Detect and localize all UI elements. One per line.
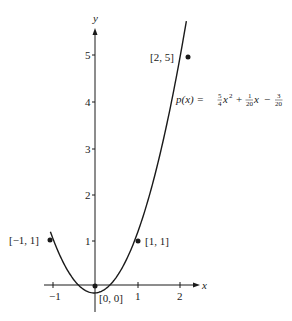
x-tick-label: 2 (177, 290, 183, 302)
data-point (93, 284, 98, 289)
x-axis-label: x (201, 279, 207, 291)
formula-sup: 2 (229, 92, 233, 100)
point-label: [1, 1] (145, 235, 169, 247)
x-axis: −1 1 2 x (44, 279, 207, 302)
formula-b-den: 20 (246, 100, 254, 108)
formula-x1: x (253, 93, 259, 105)
x-axis-arrow-icon (193, 283, 200, 288)
formula-b-num: 1 (248, 92, 252, 100)
formula-lhs: p(x) = (175, 93, 204, 106)
y-axis-arrow-icon (93, 28, 98, 35)
data-point (136, 239, 141, 244)
y-tick-label: 1 (85, 235, 91, 247)
data-points (48, 55, 191, 289)
chart: −1 1 2 x 1 2 3 4 5 y [−1, 1] [0, 0] [1, … (0, 0, 292, 321)
formula-c-num: 3 (277, 92, 281, 100)
formula-c-den: 20 (275, 100, 283, 108)
formula-a-num: 5 (218, 92, 222, 100)
x-tick-label: −1 (49, 290, 61, 302)
y-axis-label: y (92, 12, 98, 24)
formula-plus: + (236, 93, 242, 105)
point-label: [0, 0] (99, 292, 123, 304)
y-tick-label: 4 (85, 96, 91, 108)
data-point (186, 55, 191, 60)
formula-x2: x (222, 93, 228, 105)
x-tick-label: 1 (135, 290, 141, 302)
formula-annotation: p(x) = 5 4 x 2 + 1 20 x − 3 20 (175, 92, 283, 108)
formula-minus: − (264, 93, 270, 105)
point-label: [2, 5] (150, 51, 174, 63)
y-tick-label: 2 (85, 189, 91, 201)
point-label: [−1, 1] (9, 234, 39, 246)
y-axis: 1 2 3 4 5 y (85, 12, 98, 312)
y-tick-label: 3 (85, 143, 91, 155)
y-tick-label: 5 (85, 49, 91, 61)
formula-a-den: 4 (218, 100, 222, 108)
data-point (48, 238, 53, 243)
